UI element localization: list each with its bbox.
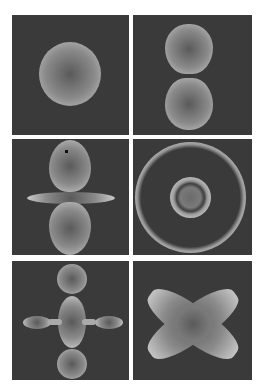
left-connector <box>48 319 62 325</box>
panel-lobes-torus <box>12 139 129 255</box>
marker-dot <box>65 150 68 153</box>
inner-ring <box>170 177 211 218</box>
panel-four-lobe-clover <box>133 261 252 380</box>
lower-lobe <box>49 202 91 255</box>
panel-two-lobes <box>133 15 252 135</box>
right-side-lobe <box>95 316 123 329</box>
upper-lobe <box>165 24 213 74</box>
top-sphere <box>57 264 87 294</box>
panel-lobes-chain <box>12 261 129 380</box>
sphere-lobe <box>39 42 101 106</box>
upper-lobe <box>49 140 91 192</box>
lower-lobe <box>165 78 213 130</box>
right-connector <box>82 319 96 325</box>
left-side-lobe <box>23 316 51 329</box>
panel-concentric-rings <box>133 139 252 255</box>
bottom-sphere <box>57 349 87 379</box>
panel-sphere <box>12 15 129 135</box>
clover-center <box>173 304 213 344</box>
